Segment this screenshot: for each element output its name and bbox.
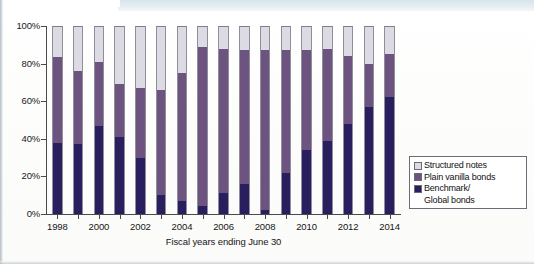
- legend-swatch-benchmark-global-bonds: [414, 185, 422, 193]
- bar-segment-2000-light: [94, 26, 105, 62]
- bar-2009: [281, 26, 292, 214]
- x-axis-tick-label-2004: 2004: [168, 221, 196, 232]
- y-axis-tick-label-wrap: 60%: [0, 96, 41, 97]
- x-axis-tick-label-2006: 2006: [210, 221, 238, 232]
- plot-area: [47, 26, 400, 214]
- bar-segment-2014-dark: [384, 97, 395, 214]
- x-axis-tick-label-2000: 2000: [85, 221, 113, 232]
- legend-label-plain-vanilla-bonds: Plain vanilla bonds: [424, 172, 495, 183]
- bar-segment-2003-mid: [156, 90, 167, 195]
- x-axis-tick-label-2002: 2002: [126, 221, 154, 232]
- y-axis-tick-label-wrap: 0%: [0, 209, 41, 210]
- bar-2011: [322, 26, 333, 214]
- x-axis-tick: [307, 215, 308, 219]
- bar-segment-2003-dark: [156, 195, 167, 214]
- bar-segment-1999-mid: [73, 71, 84, 144]
- x-axis-tick-label-2008: 2008: [251, 221, 279, 232]
- bar-segment-1999-light: [73, 26, 84, 71]
- bar-1998: [52, 26, 63, 214]
- bar-segment-2002-dark: [135, 158, 146, 214]
- x-axis-tick: [390, 215, 391, 219]
- bar-segment-2012-light: [343, 26, 354, 56]
- bar-segment-2009-dark: [281, 173, 292, 214]
- bar-segment-2007-mid: [239, 50, 250, 183]
- bar-segment-2010-mid: [301, 50, 312, 150]
- bar-segment-2011-dark: [322, 141, 333, 214]
- stacked-bar-chart: 0%20%40%60%80%100% 199820002002200420062…: [0, 0, 534, 264]
- chart-legend: Structured notes Plain vanilla bonds Ben…: [409, 156, 527, 209]
- x-axis-tick-label-1998: 1998: [43, 221, 71, 232]
- x-axis-title: Fiscal years ending June 30: [47, 236, 400, 247]
- bar-segment-2009-mid: [281, 50, 292, 172]
- bar-segment-2000-dark: [94, 126, 105, 214]
- bar-segment-2011-light: [322, 26, 333, 49]
- x-axis-tick: [161, 215, 162, 219]
- bar-2005: [197, 26, 208, 214]
- bar-segment-2005-dark: [197, 206, 208, 214]
- bar-segment-2009-light: [281, 26, 292, 50]
- x-axis-tick-label-2012: 2012: [334, 221, 362, 232]
- bar-segment-2000-mid: [94, 62, 105, 126]
- x-axis-tick: [369, 215, 370, 219]
- x-axis-tick: [78, 215, 79, 219]
- bar-segment-2012-mid: [343, 56, 354, 124]
- bar-segment-2008-light: [260, 26, 271, 50]
- bar-2004: [177, 26, 188, 214]
- bar-segment-2005-light: [197, 26, 208, 47]
- bar-2013: [364, 26, 375, 214]
- bar-segment-2006-dark: [218, 193, 229, 214]
- y-axis-tick-label: 20%: [0, 171, 40, 181]
- bar-segment-2004-mid: [177, 73, 188, 201]
- bar-segment-2003-light: [156, 26, 167, 90]
- bar-segment-2011-mid: [322, 49, 333, 141]
- bar-2003: [156, 26, 167, 214]
- bar-segment-2006-light: [218, 26, 229, 49]
- bar-segment-2006-mid: [218, 49, 229, 194]
- x-axis-tick: [57, 215, 58, 219]
- bar-2014: [384, 26, 395, 214]
- legend-item-structured-notes: Structured notes: [414, 160, 522, 171]
- legend-swatch-plain-vanilla-bonds: [414, 173, 422, 181]
- y-axis-tick-label-wrap: 100%: [0, 21, 41, 22]
- bar-segment-2002-mid: [135, 88, 146, 158]
- bar-segment-2002-light: [135, 26, 146, 88]
- bar-segment-2001-dark: [114, 137, 125, 214]
- x-axis-tick: [140, 215, 141, 219]
- bar-segment-1998-light: [52, 26, 63, 57]
- bar-segment-2004-light: [177, 26, 188, 73]
- y-axis-tick: [41, 214, 47, 215]
- y-axis-tick-label: 40%: [0, 134, 40, 144]
- bar-segment-2007-light: [239, 26, 250, 50]
- bar-segment-2013-mid: [364, 64, 375, 107]
- bar-2007: [239, 26, 250, 214]
- legend-label-structured-notes: Structured notes: [424, 160, 487, 171]
- y-axis-tick-label-wrap: 40%: [0, 134, 41, 135]
- x-axis-tick: [348, 215, 349, 219]
- bar-2012: [343, 26, 354, 214]
- bar-segment-2010-dark: [301, 150, 312, 214]
- x-axis-tick: [120, 215, 121, 219]
- bar-segment-1998-mid: [52, 57, 63, 143]
- bar-1999: [73, 26, 84, 214]
- y-axis-tick-label-wrap: 80%: [0, 59, 41, 60]
- legend-item-plain-vanilla-bonds: Plain vanilla bonds: [414, 172, 522, 183]
- x-axis-tick-label-2010: 2010: [293, 221, 321, 232]
- bar-2002: [135, 26, 146, 214]
- x-axis-tick: [327, 215, 328, 219]
- x-axis-tick: [224, 215, 225, 219]
- y-axis-tick-label: 100%: [0, 21, 40, 31]
- bar-segment-2013-dark: [364, 107, 375, 214]
- bar-segment-2001-mid: [114, 84, 125, 137]
- x-axis-tick-label-2014: 2014: [376, 221, 404, 232]
- bar-segment-2008-mid: [260, 50, 271, 210]
- bar-segment-2013-light: [364, 26, 375, 64]
- bar-segment-2012-dark: [343, 124, 354, 214]
- bar-segment-2014-mid: [384, 54, 395, 97]
- bar-2000: [94, 26, 105, 214]
- bar-segment-1999-dark: [73, 144, 84, 214]
- y-axis-tick-label-wrap: 20%: [0, 171, 41, 172]
- bar-segment-2010-light: [301, 26, 312, 50]
- bar-segment-2014-light: [384, 26, 395, 54]
- bar-segment-2005-mid: [197, 47, 208, 207]
- y-axis-tick-label: 60%: [0, 96, 40, 106]
